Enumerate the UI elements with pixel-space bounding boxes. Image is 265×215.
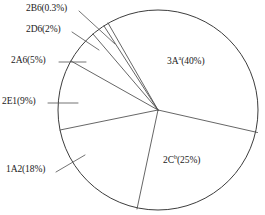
slice-label-2e1: 2E1(9%) (2, 97, 36, 107)
slice-label-2c9: 2Cb(25%) (163, 156, 200, 166)
divider-2b6-3a4 (108, 23, 158, 110)
slice-label-2c9-base: 2C (163, 155, 174, 165)
divider-2c9-1a2 (137, 110, 158, 209)
slice-label-2d6: 2D6(2%) (26, 25, 61, 35)
divider-2a6-2d6 (93, 34, 158, 110)
slice-label-3a4: 3Aa(40%) (167, 57, 204, 67)
slice-label-2a6: 2A6(5%) (11, 56, 46, 66)
slice-label-1a2: 1A2(18%) (6, 165, 45, 175)
leader-lines (48, 11, 115, 172)
divider-3a4-2c9 (158, 110, 258, 133)
slice-label-2c9-percent: (25%) (177, 155, 200, 165)
divider-1a2-2e1 (60, 110, 158, 130)
divider-2e1-2a6 (71, 61, 158, 110)
slice-label-3a4-percent: (40%) (181, 56, 204, 66)
slice-label-3a4-base: 3A (167, 56, 178, 66)
divider-2d6-2b6 (104, 26, 158, 110)
leader-line-2d6 (72, 32, 99, 50)
pie-chart-figure: 2B6(0.3%) 2D6(2%) 2A6(5%) 2E1(9%) 1A2(18… (0, 0, 265, 215)
slice-label-2b6: 2B6(0.3%) (26, 4, 67, 14)
